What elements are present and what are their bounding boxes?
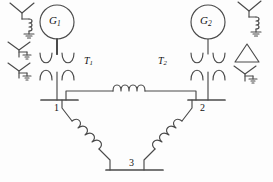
legend-wye-grounded-left-b xyxy=(8,63,31,80)
bus-1-label: 1 xyxy=(54,103,59,113)
generator-2-symbol xyxy=(191,5,225,54)
generator-2-label: G2 xyxy=(200,15,212,27)
legend-delta-right xyxy=(235,44,259,62)
transformer-1-winding-lower xyxy=(40,70,74,100)
transformer-1-label: T1 xyxy=(84,56,93,67)
branch-line-2-3 xyxy=(144,100,192,170)
one-line-diagram-svg xyxy=(0,0,273,182)
diagram-canvas: G1 G2 T1 T2 1 2 3 xyxy=(0,0,273,182)
branch-line-1-3 xyxy=(62,100,110,170)
generator-1-symbol xyxy=(40,5,74,54)
branch-line-1-2 xyxy=(66,85,196,100)
legend-wye-grounded-right xyxy=(234,66,257,83)
legend-wye-reactor-grounded-right xyxy=(238,1,261,36)
transformer-2-label: T2 xyxy=(158,56,167,67)
bus-3-label: 3 xyxy=(129,158,134,168)
generator-1-label: G1 xyxy=(49,15,61,27)
bus-2-label: 2 xyxy=(200,103,205,113)
legend-wye-reactor-grounded-left xyxy=(10,3,34,38)
transformer-1-winding-upper xyxy=(40,53,74,63)
legend-wye-grounded-left-a xyxy=(8,42,31,59)
